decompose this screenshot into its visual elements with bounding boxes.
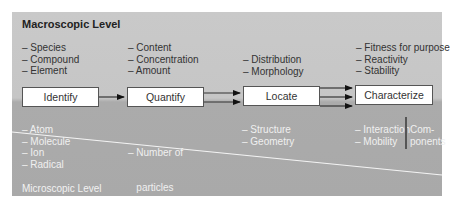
list-item: – Radical [22, 159, 70, 171]
list-item: – Compound [22, 54, 79, 66]
list-item: – Mobility [355, 136, 410, 148]
list-item: – Fitness for purpose [356, 42, 450, 54]
list-item: – Number of [128, 147, 183, 159]
step-quantify-box: Quantify [127, 87, 204, 107]
step-identify-box: Identify [22, 87, 99, 107]
list-item: – Content [128, 42, 199, 54]
quantify-micro-list: – Number of particles [128, 124, 183, 205]
characterize-micro-list: – Interaction – Mobility [355, 124, 410, 147]
list-item: – Ion [22, 147, 70, 159]
quantify-macro-list: – Content – Concentration – Amount [128, 42, 199, 77]
identify-micro-list: – Atom – Molecule – Ion – Radical [22, 124, 70, 170]
list-item: – Species [22, 42, 79, 54]
list-item: ponents [410, 136, 446, 148]
identify-macro-list: – Species – Compound – Element [22, 42, 79, 77]
list-item: – Structure [242, 124, 294, 136]
list-item: Com- [410, 124, 446, 136]
list-item: – Geometry [242, 136, 294, 148]
list-item: – Concentration [128, 54, 199, 66]
list-item: – Element [22, 65, 79, 77]
list-item: – Morphology [243, 66, 304, 78]
microscopic-level-label: Microscopic Level [22, 183, 101, 194]
list-item: – Interaction [355, 124, 410, 136]
characterize-macro-list: – Fitness for purpose – Reactivity – Sta… [356, 42, 450, 77]
locate-micro-list: – Structure – Geometry [242, 124, 294, 147]
step-locate-box: Locate [243, 86, 320, 106]
locate-macro-list: – Distribution – Morphology [243, 54, 304, 77]
list-item: particles [128, 182, 183, 194]
components-bracket [405, 117, 407, 149]
list-item: – Atom [22, 124, 70, 136]
list-item: – Distribution [243, 54, 304, 66]
list-item: – Amount [128, 65, 199, 77]
list-item: – Reactivity [356, 54, 450, 66]
macroscopic-level-label: Macroscopic Level [22, 18, 120, 30]
step-characterize-box: Characterize [355, 85, 433, 105]
components-label: Com- ponents [410, 124, 446, 147]
list-item: – Stability [356, 65, 450, 77]
list-item: – Molecule [22, 136, 70, 148]
